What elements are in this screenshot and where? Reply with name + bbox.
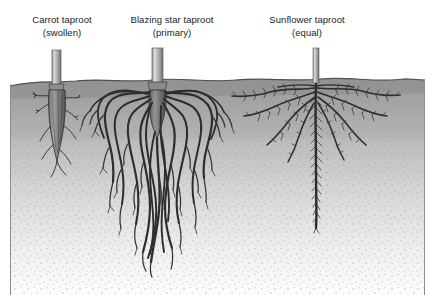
- label-carrot-taproot: Carrot taproot (swollen): [6, 14, 118, 39]
- sunflower-primary-taproot: [316, 84, 317, 228]
- label-sunflower-line1: Sunflower taproot: [240, 14, 374, 27]
- caption-labels: Carrot taproot (swollen) Blazing star ta…: [0, 0, 435, 52]
- blazing-star-stem: [152, 48, 163, 84]
- label-blazing-star-taproot: Blazing star taproot (primary): [108, 14, 236, 39]
- label-sunflower-line2: (equal): [240, 27, 374, 40]
- botanical-figure-taproot-types: Carrot taproot (swollen) Blazing star ta…: [0, 0, 435, 295]
- label-carrot-line2: (swollen): [6, 27, 118, 40]
- label-blazing-line2: (primary): [108, 27, 236, 40]
- label-blazing-line1: Blazing star taproot: [108, 14, 236, 27]
- sunflower-stem: [313, 48, 319, 83]
- label-carrot-line1: Carrot taproot: [6, 14, 118, 27]
- carrot-stem: [52, 50, 61, 86]
- label-sunflower-taproot: Sunflower taproot (equal): [240, 14, 374, 39]
